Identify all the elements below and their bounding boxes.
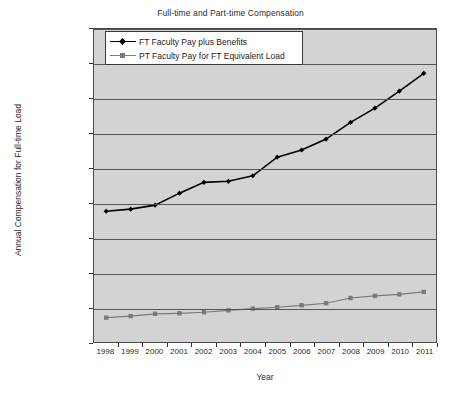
data-point-marker: [299, 303, 303, 307]
gridline: [94, 99, 436, 100]
y-tick-mark: [89, 63, 93, 64]
y-tick-mark: [89, 168, 93, 169]
gridline: [94, 239, 436, 240]
data-point-marker: [202, 310, 206, 314]
legend-swatch-icon: [110, 37, 136, 47]
data-point-marker: [104, 209, 109, 214]
y-tick-mark: [89, 343, 93, 344]
data-point-marker: [373, 294, 377, 298]
x-tick-label: 2011: [408, 347, 442, 356]
plot-area: [93, 28, 437, 343]
gridline: [94, 309, 436, 310]
y-tick-mark: [89, 98, 93, 99]
y-tick-mark: [89, 203, 93, 204]
data-point-marker: [128, 314, 132, 318]
legend-label: PT Faculty Pay for FT Equivalent Load: [139, 51, 285, 61]
data-point-marker: [299, 147, 304, 152]
legend-item[interactable]: PT Faculty Pay for FT Equivalent Load: [110, 49, 298, 62]
y-tick-mark: [89, 308, 93, 309]
data-point-marker: [397, 292, 401, 296]
chart-title: Full-time and Part-time Compensation: [0, 8, 461, 18]
chart-legend: FT Faculty Pay plus BenefitsPT Faculty P…: [105, 31, 303, 65]
series-line: [106, 73, 424, 211]
gridline: [94, 169, 436, 170]
y-tick-mark: [89, 238, 93, 239]
data-point-marker: [226, 179, 231, 184]
data-point-marker: [201, 180, 206, 185]
legend-swatch-icon: [110, 51, 136, 61]
data-point-marker: [128, 207, 133, 212]
legend-item[interactable]: FT Faculty Pay plus Benefits: [110, 35, 298, 48]
gridline: [94, 274, 436, 275]
data-point-marker: [422, 290, 426, 294]
y-tick-mark: [89, 133, 93, 134]
x-axis-title: Year: [93, 372, 437, 382]
y-tick-mark: [89, 28, 93, 29]
data-point-marker: [177, 311, 181, 315]
gridline: [94, 29, 436, 30]
gridline: [94, 134, 436, 135]
x-tick-mark: [437, 343, 438, 347]
series-layer: [94, 29, 436, 342]
data-point-marker: [177, 191, 182, 196]
legend-label: FT Faculty Pay plus Benefits: [139, 37, 247, 47]
gridline: [94, 204, 436, 205]
data-point-marker: [348, 296, 352, 300]
compensation-line-chart: Full-time and Part-time Compensation Ann…: [0, 0, 461, 403]
y-axis-title: Annual Compensation for Full-time Load: [13, 80, 23, 280]
data-point-marker: [153, 312, 157, 316]
data-point-marker: [104, 315, 108, 319]
y-tick-mark: [89, 273, 93, 274]
data-point-marker: [324, 301, 328, 305]
